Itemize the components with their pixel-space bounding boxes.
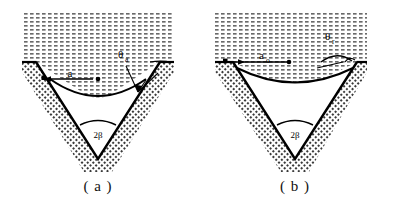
radius-label-a: a (68, 67, 73, 79)
panel-b-caption: ( b ) (197, 178, 393, 195)
apex-angle-arc (277, 121, 313, 126)
contact-angle-label-theta: θ (118, 48, 123, 60)
panel-a-caption: ( a ) (0, 178, 196, 195)
panel-a: a θ a 2β ( a ) (0, 0, 196, 214)
figure-root: a θ a 2β ( a ) (0, 0, 393, 214)
apex-angle-label: 2β (93, 130, 103, 140)
apex-angle-arc (80, 121, 116, 126)
panel-b: a o θ r 2β ( b ) (197, 0, 393, 214)
apex-angle-label: 2β (290, 130, 300, 140)
radius-label-a: a (259, 49, 264, 61)
radius-label-subscript: o (266, 56, 270, 65)
contact-angle-label-theta: θ (325, 30, 330, 42)
